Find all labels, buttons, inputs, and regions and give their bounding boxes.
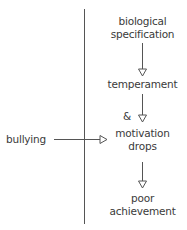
- node-label: achievement: [102, 205, 183, 218]
- ampersand-label: &: [121, 110, 133, 123]
- node-label: specification: [102, 28, 183, 41]
- node-bullying: bullying: [6, 133, 52, 146]
- node-temperament: temperament: [100, 78, 185, 91]
- arrowhead-icon: [139, 69, 147, 76]
- node-label: motivation: [104, 127, 181, 140]
- node-label: biological: [102, 15, 183, 28]
- node-motivation-drops: motivation drops: [104, 127, 181, 153]
- node-poor-achievement: poor achievement: [102, 192, 183, 218]
- node-biological-specification: biological specification: [102, 15, 183, 41]
- arrowhead-icon: [139, 181, 147, 188]
- node-label: poor: [102, 192, 183, 205]
- node-label: drops: [104, 140, 181, 153]
- arrowhead-icon: [139, 115, 147, 122]
